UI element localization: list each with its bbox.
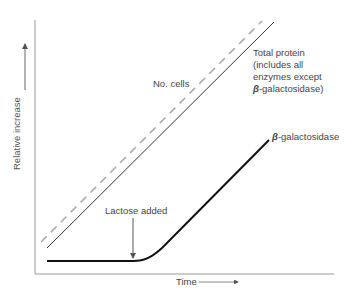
chart-canvas (0, 0, 355, 296)
y-axis-label: Relative increase (11, 97, 22, 170)
label-total-protein-3: enzymes except (253, 71, 322, 83)
label-text: -galactosidase) (259, 83, 323, 94)
label-text: -galactosidase (278, 131, 339, 142)
label-total-protein-1: Total protein (253, 47, 305, 59)
label-no-cells: No. cells (153, 78, 189, 90)
label-total-protein-4: β-galactosidase) (253, 83, 323, 95)
label-total-protein-2: (includes all (253, 59, 303, 71)
label-beta-galactosidase: β-galactosidase (272, 131, 339, 143)
x-axis-label: Time (176, 276, 197, 288)
label-lactose-added: Lactose added (105, 205, 167, 217)
series-beta-galactosidase (47, 140, 269, 261)
